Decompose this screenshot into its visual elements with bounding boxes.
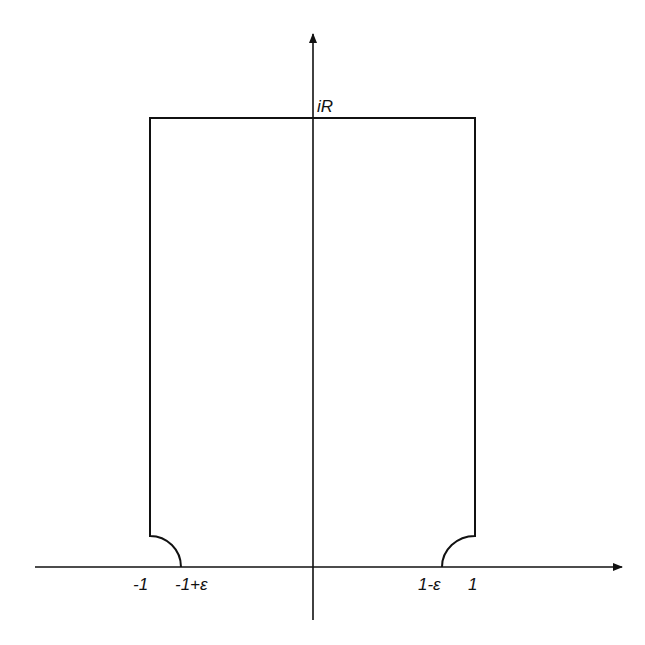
label-one-minus-eps: 1-ε [418, 576, 441, 593]
contour-diagram: iR -1 -1+ε 1-ε 1 [0, 0, 645, 645]
label-one: 1 [468, 576, 477, 593]
label-minus-one: -1 [133, 576, 148, 593]
label-minus-one-plus-eps: -1+ε [175, 576, 208, 593]
label-iR: iR [317, 98, 333, 115]
